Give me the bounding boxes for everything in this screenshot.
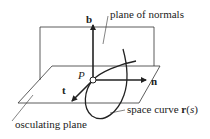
space-curve-text: space curve (127, 103, 181, 115)
plane-of-normals-label: plane of normals (110, 9, 184, 20)
normal-label: n (151, 76, 157, 87)
binormal-label: b (86, 14, 92, 25)
paren-close: ) (194, 103, 198, 115)
point-p-marker (90, 77, 96, 83)
point-p-label: P (78, 70, 85, 81)
osculating-plane-label: osculating plane (15, 119, 87, 130)
tangent-label: t (62, 85, 66, 96)
plane-of-normals-shape (40, 27, 154, 80)
plane-of-normals-leader (103, 16, 108, 44)
space-curve-leader (110, 110, 125, 113)
space-curve-label: space curve r(s) (127, 104, 198, 115)
frenet-frame-diagram: b plane of normals P n t space curve r(s… (0, 0, 210, 139)
